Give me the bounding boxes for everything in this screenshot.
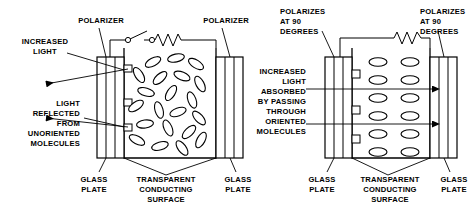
leader-conducting-surface-right — [352, 158, 430, 175]
switch-terminal-left — [125, 37, 130, 42]
label-polarizes-right-line3: DEGREES — [420, 27, 459, 36]
right-panel-powered: POLARIZES AT 90 DEGREES POLARIZES AT 90 … — [257, 7, 468, 204]
label-absorbed-line3: ABSORBED — [261, 87, 306, 96]
molecule — [401, 94, 419, 102]
left-plate-stack-left — [97, 57, 132, 158]
right-cell-body — [352, 48, 430, 158]
molecule — [369, 94, 387, 102]
resistor-right — [394, 32, 421, 44]
label-glass-plate-left-line2: PLATE — [81, 185, 106, 194]
electrode-tab — [352, 106, 360, 114]
molecule — [401, 112, 419, 120]
molecule — [163, 84, 179, 103]
label-polarizer-right: POLARIZER — [203, 16, 249, 25]
molecule — [369, 130, 387, 138]
molecule — [369, 112, 387, 120]
right-molecules — [369, 58, 419, 156]
label-increased-light-line1: INCREASED — [22, 37, 69, 46]
molecule — [128, 132, 147, 147]
label-absorbed-line4: BY PASSING — [258, 97, 306, 106]
label-glass-plate-left-line1: GLASS — [80, 175, 107, 184]
molecule — [144, 54, 163, 69]
molecule — [180, 123, 198, 141]
label-reflected-line4: UNORIENTED — [28, 129, 81, 138]
electrode-tab — [124, 124, 132, 131]
right-plate-stack-left — [325, 57, 360, 158]
leader-conducting-surface — [124, 158, 216, 175]
label-absorbed-line1: INCREASED — [259, 67, 306, 76]
leader-glass-left-right-panel — [327, 158, 334, 172]
label-absorbed-line2: LIGHT — [282, 77, 306, 86]
leader-glass-right — [230, 158, 236, 172]
left-plate-stack-right — [216, 57, 243, 158]
molecule — [153, 101, 165, 120]
label-glass-plate-right-right-panel-line1: GLASS — [440, 175, 467, 184]
right-plate-stack-right — [430, 57, 457, 158]
label-glass-plate-right-line2: PLATE — [225, 185, 250, 194]
label-conducting-surface-right-line2: CONDUCTING — [363, 185, 416, 194]
open-switch-blade — [130, 31, 147, 39]
left-molecules — [127, 52, 209, 157]
molecule — [151, 69, 169, 86]
label-absorbed-line6: ORIENTED — [265, 117, 306, 126]
molecule — [185, 91, 198, 110]
label-polarizes-right-line2: AT 90 — [420, 17, 441, 26]
label-glass-plate-right-right-panel-line2: PLATE — [441, 185, 466, 194]
electrode-tab — [352, 135, 360, 143]
molecule — [401, 58, 419, 66]
label-polarizes-left-line3: DEGREES — [280, 27, 319, 36]
molecule — [161, 119, 175, 138]
label-conducting-surface-line2: CONDUCTING — [139, 185, 192, 194]
label-reflected-line3: FROM — [57, 119, 80, 128]
molecule — [131, 66, 147, 85]
label-polarizes-left-line1: POLARIZES — [280, 7, 325, 16]
molecule — [173, 69, 192, 83]
label-glass-plate-left-right-panel-line1: GLASS — [308, 175, 335, 184]
molecule — [192, 75, 207, 94]
label-conducting-surface-line3: SURFACE — [147, 195, 185, 204]
label-polarizer-left: POLARIZER — [78, 16, 124, 25]
left-leader-lines — [67, 28, 236, 175]
label-polarizes-right-line1: POLARIZES — [420, 7, 465, 16]
molecule — [369, 148, 387, 156]
molecule — [151, 140, 170, 152]
molecule — [401, 148, 419, 156]
leader-polarizes-left — [322, 31, 334, 57]
label-reflected-line5: MOLECULES — [31, 139, 80, 148]
molecule — [187, 56, 206, 72]
leader-polarizer-left — [99, 28, 106, 57]
molecule — [137, 86, 156, 98]
label-conducting-surface-right-line3: SURFACE — [371, 195, 409, 204]
electrode-tab — [352, 70, 360, 78]
switch-terminal-right — [149, 37, 154, 42]
molecule — [401, 76, 419, 84]
lcd-diagram-figure: POLARIZER POLARIZER INCREASED LIGHT LIGH… — [0, 0, 476, 208]
label-increased-light-line2: LIGHT — [33, 47, 57, 56]
molecule — [369, 58, 387, 66]
leader-polarizer-right — [222, 28, 230, 57]
electrode-tab — [124, 65, 132, 72]
molecule — [167, 52, 185, 63]
resistor-left — [155, 34, 203, 46]
molecule — [193, 131, 208, 150]
molecule — [169, 105, 188, 118]
molecule — [136, 119, 154, 129]
label-absorbed-line5: THROUGH — [266, 107, 306, 116]
leader-glass-right-right-panel — [444, 158, 450, 172]
label-reflected-line1: LIGHT — [56, 99, 80, 108]
molecule — [401, 130, 419, 138]
label-conducting-surface-right-line1: TRANSPARENT — [360, 175, 419, 184]
label-conducting-surface-line1: TRANSPARENT — [136, 175, 195, 184]
molecule — [174, 139, 190, 157]
label-glass-plate-right-line1: GLASS — [224, 175, 251, 184]
label-glass-plate-left-right-panel-line2: PLATE — [309, 185, 334, 194]
molecule — [190, 109, 207, 127]
label-reflected-line2: REFLECTED — [33, 109, 81, 118]
diagram-canvas: POLARIZER POLARIZER INCREASED LIGHT LIGH… — [0, 0, 476, 208]
molecule — [369, 76, 387, 84]
label-absorbed-line7: MOLECULES — [257, 127, 306, 136]
leader-glass-left — [99, 158, 106, 172]
left-panel-unpowered: POLARIZER POLARIZER INCREASED LIGHT LIGH… — [22, 16, 252, 204]
label-polarizes-left-line2: AT 90 — [280, 17, 301, 26]
